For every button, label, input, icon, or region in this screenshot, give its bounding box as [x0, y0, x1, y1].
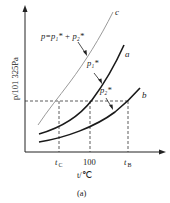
x-axis-arrow-icon — [159, 150, 166, 155]
tick-tB-sub: B — [128, 162, 132, 168]
p1-star-label: p₁* — [86, 58, 99, 68]
arrow-head-icon — [109, 105, 113, 111]
y-axis-label: p/101 325Pa — [10, 57, 20, 100]
phase-diagram: c a b p=p₁* + p₂* p₁* p₂* p/101 325Pa t … — [0, 0, 170, 203]
tick-100: 100 — [83, 157, 96, 167]
y-axis-arrow-icon — [23, 5, 28, 12]
panel-label: (a) — [77, 188, 87, 198]
curve-label-b: b — [142, 90, 147, 100]
p2-star-label: p₂* — [99, 85, 112, 95]
x-axis-label: t/℃ — [77, 170, 92, 180]
curve-label-a: a — [125, 49, 130, 59]
curve-c — [38, 12, 113, 125]
curve-label-c: c — [115, 7, 119, 17]
total-pressure-label: p=p₁* + p₂* — [40, 31, 85, 41]
curve-b — [39, 88, 140, 142]
tick-tC-sub: C — [59, 162, 63, 168]
annotation-arrows — [78, 42, 112, 108]
